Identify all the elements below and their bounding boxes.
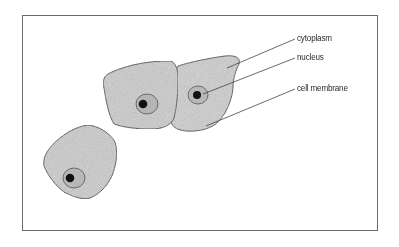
cell-illustration xyxy=(0,0,399,247)
cell-body xyxy=(44,125,117,199)
cell-bottom-left xyxy=(44,125,117,199)
leader-line-cytoplasm xyxy=(227,39,295,68)
nucleolus-icon xyxy=(193,91,201,99)
label-cell-membrane: cell membrane xyxy=(297,82,348,93)
label-cytoplasm: cytoplasm xyxy=(297,32,332,43)
cell-body xyxy=(103,61,178,129)
cell-middle xyxy=(103,61,178,129)
label-nucleus: nucleus xyxy=(297,51,324,62)
nucleolus-icon xyxy=(139,100,148,109)
nucleolus-icon xyxy=(66,174,75,183)
